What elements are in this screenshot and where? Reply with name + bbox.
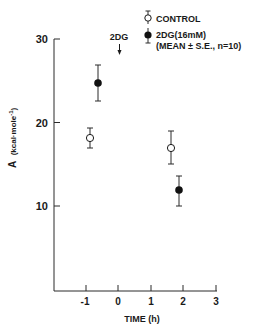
axes (54, 39, 217, 291)
series-control (86, 128, 174, 164)
x-axis-label: TIME (h) (124, 314, 160, 324)
x-tick-label-2: 2 (180, 296, 186, 307)
annotation-2dg: 2DG (110, 32, 129, 55)
svg-text:A (kcal·mole-1): A (kcal·mole-1) (7, 107, 18, 168)
x-ticks: -1 0 1 2 3 (81, 285, 220, 307)
legend: CONTROL 2DG(16mM) (MEAN ± S.E., n=10) (144, 11, 241, 51)
open-circle-icon (145, 15, 151, 21)
legend-note: (MEAN ± S.E., n=10) (156, 41, 241, 51)
data-point-2dg-2 (175, 176, 183, 206)
series-2dg (94, 65, 183, 206)
annotation-label: 2DG (110, 32, 129, 42)
x-tick-label-3: 3 (213, 296, 219, 307)
y-tick-label-10: 10 (36, 200, 48, 212)
data-point-control-2 (167, 131, 174, 164)
x-tick-label-1: 1 (148, 296, 154, 307)
data-point-2dg-1 (94, 65, 102, 101)
y-tick-label-30: 30 (36, 33, 48, 45)
y-tick-label-20: 20 (36, 117, 48, 129)
y-axis-label: A (kcal·mole-1) (7, 107, 18, 168)
y-ticks: 30 20 10 (36, 33, 60, 212)
data-point-control-1 (86, 128, 93, 148)
legend-label-control: CONTROL (156, 14, 201, 24)
filled-circle-icon (144, 31, 151, 38)
legend-label-2dg: 2DG(16mM) (156, 30, 206, 40)
arrowhead-icon (118, 50, 122, 55)
legend-item-control: CONTROL (145, 11, 201, 24)
x-tick-label-0: 0 (115, 296, 121, 307)
chart: 30 20 10 -1 0 1 2 3 TIME (h) A (kcal·mol… (0, 0, 255, 332)
x-tick-label-m1: -1 (81, 296, 90, 307)
